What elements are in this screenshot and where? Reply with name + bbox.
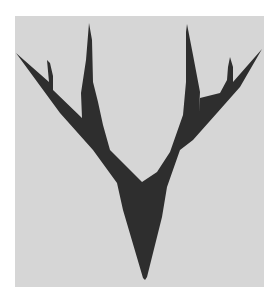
antler-silhouette-icon: [0, 0, 280, 304]
image-canvas: Dark forked antler / tree silhouette on …: [0, 0, 280, 304]
